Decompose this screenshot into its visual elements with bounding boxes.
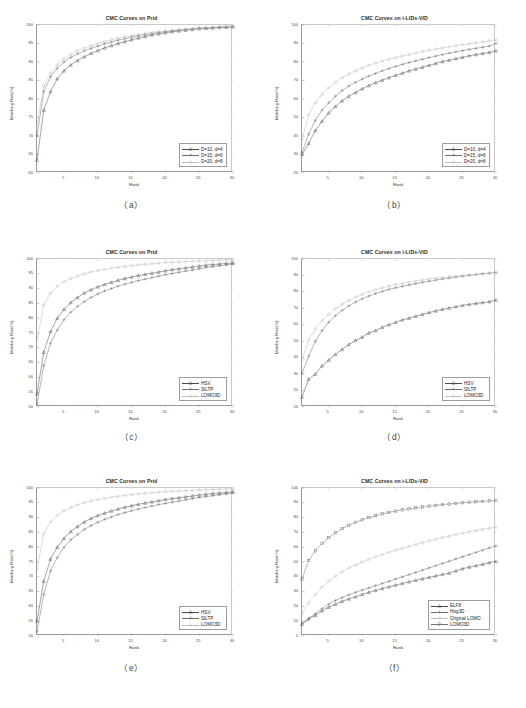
caption-e: （e） (0, 661, 263, 673)
y-tick-label: 100 (279, 485, 298, 490)
legend-symbol-plus (182, 615, 199, 621)
subfigure-a: CMC Curves on Prid6065707580859095100510… (0, 0, 263, 230)
y-tick-label: 50 (279, 114, 298, 119)
legend-symbol-triangle (431, 603, 448, 609)
legend-symbol-triangle (182, 146, 199, 152)
x-tick-label: 20 (419, 638, 437, 643)
y-tick-label: 100 (279, 22, 298, 27)
legend-item[interactable]: D=15, d=6 (182, 152, 223, 158)
y-tick-label: 10 (279, 618, 298, 623)
y-tick-label: 70 (279, 77, 298, 82)
chart-title: CMC Curves on Prid (0, 249, 263, 255)
legend-item[interactable]: LOMO3D (182, 622, 223, 628)
y-tick-label: 20 (279, 387, 298, 392)
legend-symbol-triangle (445, 146, 462, 152)
legend-symbol-circle (445, 393, 462, 399)
y-tick-label: 100 (14, 485, 33, 490)
y-tick-label: 20 (279, 170, 298, 175)
x-tick-label: 20 (155, 638, 173, 643)
legend-item[interactable]: LOMO3D (445, 393, 486, 399)
subfigure-f: CMC Curves on i-LIDs-VID0102030405060708… (263, 455, 526, 708)
x-tick-label: 10 (88, 409, 106, 414)
y-tick-label: 85 (14, 300, 33, 305)
x-tick-label: 5 (319, 409, 337, 414)
y-tick-label: 60 (14, 603, 33, 608)
chart-wrapper-e: CMC Curves on Prid5055606570758085909510… (0, 455, 263, 640)
y-tick-label: 70 (14, 344, 33, 349)
x-tick-label: 30 (486, 409, 504, 414)
y-axis-label: Matching Rate(%) (9, 86, 14, 120)
x-tick-label: 10 (352, 175, 370, 180)
chart-d: CMC Curves on i-LIDs-VID1020304050607080… (263, 244, 526, 429)
y-tick-label: 50 (279, 559, 298, 564)
legend-item[interactable]: LOMO3D (431, 621, 486, 627)
chart-c: CMC Curves on Prid5055606570758085909510… (0, 244, 263, 429)
y-tick-label: 90 (14, 59, 33, 64)
x-tick-label: 25 (189, 175, 207, 180)
chart-legend[interactable]: HSVSILTPLOMO3D (179, 606, 227, 630)
subfigure-d: CMC Curves on i-LIDs-VID1020304050607080… (263, 230, 526, 455)
legend-label: D=10, d=4 (201, 147, 222, 152)
legend-item[interactable]: LOMO3D (182, 393, 223, 399)
legend-symbol-plus (445, 386, 462, 392)
chart-title: CMC Curves on i-LIDs-VID (263, 478, 526, 484)
y-tick-label: 60 (279, 96, 298, 101)
legend-item[interactable]: D=10, d=4 (182, 146, 223, 152)
y-tick-label: 55 (14, 618, 33, 623)
legend-symbol-circle (445, 159, 462, 165)
legend-label: D=20, d=8 (464, 159, 485, 164)
x-tick-label: 20 (155, 409, 173, 414)
legend-item[interactable]: D=20, d=8 (182, 159, 223, 165)
y-tick-label: 60 (14, 374, 33, 379)
y-tick-label: 70 (14, 573, 33, 578)
x-tick-label: 25 (189, 409, 207, 414)
y-tick-label: 65 (14, 359, 33, 364)
legend-label: Hog3D (450, 609, 464, 614)
legend-symbol-triangle (445, 380, 462, 386)
chart-title: CMC Curves on i-LIDs-VID (263, 15, 526, 21)
x-tick-label: 30 (486, 175, 504, 180)
y-tick-label: 65 (14, 588, 33, 593)
y-tick-label: 10 (279, 404, 298, 409)
legend-item[interactable]: Original LOMO (431, 615, 486, 621)
chart-legend[interactable]: D=10, d=4D=15, d=6D=20, d=8 (442, 143, 490, 167)
y-tick-label: 70 (279, 305, 298, 310)
legend-item[interactable]: D=15, d=6 (445, 152, 486, 158)
chart-wrapper-c: CMC Curves on Prid5055606570758085909510… (0, 230, 263, 415)
legend-symbol-plus (182, 152, 199, 158)
y-tick-label: 90 (279, 272, 298, 277)
legend-symbol-circle (182, 393, 199, 399)
caption-d: （d） (263, 430, 526, 442)
legend-item[interactable]: D=10, d=4 (445, 146, 486, 152)
x-tick-label: 15 (122, 175, 140, 180)
chart-legend[interactable]: ELF8Hog3DOriginal LOMOLOMO3D (428, 600, 490, 630)
y-tick-label: 70 (14, 133, 33, 138)
legend-label: Original LOMO (450, 616, 481, 621)
chart-legend[interactable]: HSVSILTPLOMO3D (179, 377, 227, 401)
chart-legend[interactable]: HSVSILTPLOMO3D (442, 377, 490, 401)
y-tick-label: 95 (14, 40, 33, 45)
x-tick-label: 10 (352, 638, 370, 643)
chart-a: CMC Curves on Prid6065707580859095100510… (0, 10, 263, 195)
legend-symbol-triangle (182, 609, 199, 615)
y-tick-label: 60 (279, 321, 298, 326)
chart-wrapper-b: CMC Curves on i-LIDs-VID2030405060708090… (263, 0, 526, 185)
y-tick-label: 30 (279, 151, 298, 156)
x-tick-label: 5 (319, 638, 337, 643)
chart-title: CMC Curves on i-LIDs-VID (263, 249, 526, 255)
y-tick-label: 65 (14, 151, 33, 156)
x-tick-label: 20 (419, 409, 437, 414)
legend-symbol-triangle (182, 380, 199, 386)
y-tick-label: 80 (14, 96, 33, 101)
legend-item[interactable]: D=20, d=8 (445, 159, 486, 165)
chart-b: CMC Curves on i-LIDs-VID2030405060708090… (263, 10, 526, 195)
y-tick-label: 40 (279, 573, 298, 578)
chart-wrapper-a: CMC Curves on Prid6065707580859095100510… (0, 0, 263, 185)
x-tick-label: 30 (223, 175, 241, 180)
chart-legend[interactable]: D=10, d=4D=15, d=6D=20, d=8 (179, 143, 227, 167)
chart-title: CMC Curves on Prid (0, 15, 263, 21)
subfigure-b: CMC Curves on i-LIDs-VID2030405060708090… (263, 0, 526, 230)
caption-f: （f） (263, 661, 526, 673)
y-tick-label: 95 (14, 499, 33, 504)
chart-wrapper-d: CMC Curves on i-LIDs-VID1020304050607080… (263, 230, 526, 415)
